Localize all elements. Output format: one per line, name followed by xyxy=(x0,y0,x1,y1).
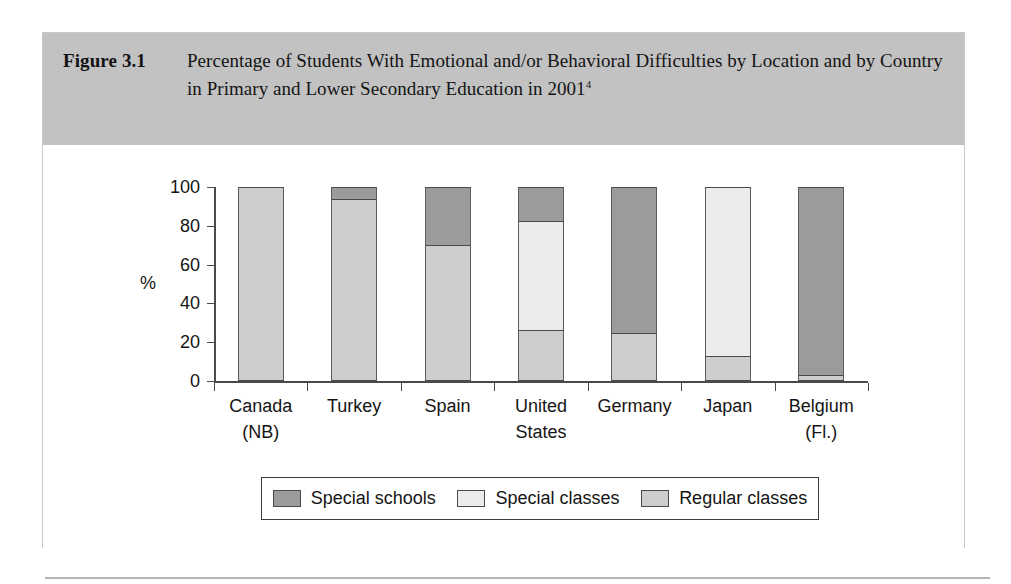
y-axis-tick-label: 100 xyxy=(170,177,200,198)
bar-segment xyxy=(425,245,471,381)
legend-item-label: Regular classes xyxy=(679,488,807,509)
x-axis-category-label: Belgium(Fl.) xyxy=(756,393,886,445)
bar-segment xyxy=(611,333,657,382)
legend-item[interactable]: Regular classes xyxy=(641,488,807,509)
bar-segment xyxy=(705,187,751,356)
figure-container: Figure 3.1 Percentage of Students With E… xyxy=(42,32,965,548)
x-axis-tick xyxy=(681,383,682,391)
figure-title-footnote-marker: 4 xyxy=(586,78,592,90)
bar-segment xyxy=(798,187,844,375)
figure-number-label: Figure 3.1 xyxy=(63,47,187,75)
x-axis-tick xyxy=(307,383,308,391)
bar-segment xyxy=(518,221,564,330)
bar-segment xyxy=(518,330,564,381)
bar-stack xyxy=(798,187,844,381)
y-axis-tick: 60 xyxy=(207,265,215,266)
bar-segment xyxy=(331,187,377,199)
y-axis-tick-label: 0 xyxy=(190,371,200,392)
bar-segment xyxy=(705,356,751,381)
x-axis-tick xyxy=(214,383,215,391)
figure-header-band: Figure 3.1 Percentage of Students With E… xyxy=(43,33,964,145)
legend-swatch-icon xyxy=(273,490,301,507)
chart-plot-area: % 020406080100 Canada(NB)TurkeySpainUnit… xyxy=(43,145,966,549)
x-axis-tick xyxy=(401,383,402,391)
x-axis-category-label-line: (NB) xyxy=(196,419,326,445)
y-axis-tick-label: 60 xyxy=(180,255,200,276)
x-axis-tick xyxy=(588,383,589,391)
bar-segment xyxy=(238,187,284,381)
legend-item[interactable]: Special classes xyxy=(457,488,619,509)
y-axis-tick-label: 20 xyxy=(180,332,200,353)
y-axis-tick: 20 xyxy=(207,342,215,343)
legend-item-label: Special schools xyxy=(311,488,436,509)
figure-title: Percentage of Students With Emotional an… xyxy=(187,47,946,103)
bar-stack xyxy=(518,187,564,381)
chart-legend: Special schoolsSpecial classesRegular cl… xyxy=(261,477,819,520)
x-axis-tick xyxy=(494,383,495,391)
y-axis-title: % xyxy=(140,273,156,294)
bar-stack xyxy=(425,187,471,381)
x-axis-category-label-line: Belgium xyxy=(756,393,886,419)
legend-swatch-icon xyxy=(457,490,485,507)
x-axis-tick xyxy=(868,383,869,391)
y-axis-line xyxy=(214,187,216,381)
bar-segment xyxy=(425,187,471,245)
bar-segment xyxy=(518,187,564,221)
x-axis-tick xyxy=(775,383,776,391)
bar-segment xyxy=(611,187,657,333)
x-axis-category-label-line: (Fl.) xyxy=(756,419,886,445)
y-axis-tick: 100 xyxy=(207,187,215,188)
figure-title-text: Percentage of Students With Emotional an… xyxy=(187,50,943,99)
x-axis-line xyxy=(214,381,868,383)
y-axis-tick-label: 40 xyxy=(180,293,200,314)
bar-segment xyxy=(331,199,377,381)
x-axis-category-label-line: States xyxy=(476,419,606,445)
page-bottom-rule xyxy=(45,577,990,579)
y-axis-tick-label: 80 xyxy=(180,216,200,237)
legend-item-label: Special classes xyxy=(495,488,619,509)
y-axis-tick: 80 xyxy=(207,226,215,227)
y-axis-tick: 40 xyxy=(207,303,215,304)
bar-stack xyxy=(705,187,751,381)
bar-stack xyxy=(238,187,284,381)
bar-segment xyxy=(798,375,844,381)
y-axis-tick: 0 xyxy=(207,381,215,382)
chart-panel: % 020406080100 Canada(NB)TurkeySpainUnit… xyxy=(43,145,964,549)
bar-stack xyxy=(611,187,657,381)
legend-swatch-icon xyxy=(641,490,669,507)
bar-stack xyxy=(331,187,377,381)
legend-item[interactable]: Special schools xyxy=(273,488,436,509)
